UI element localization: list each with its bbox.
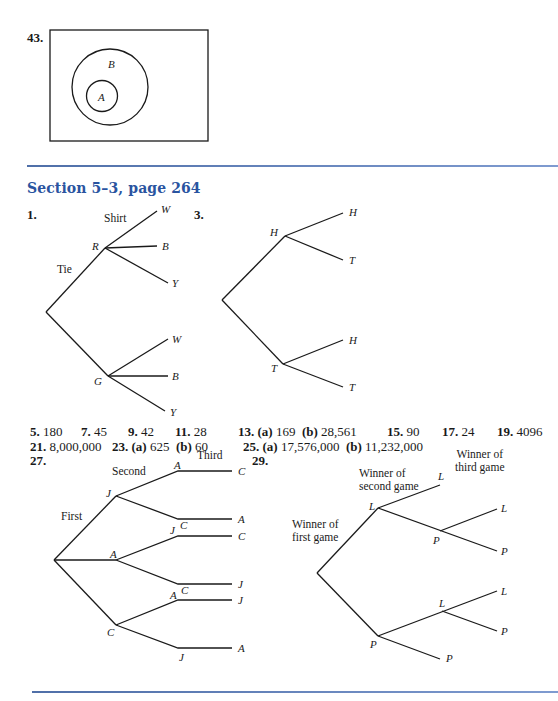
- tree29-label-first-line1: Winner of: [292, 518, 338, 530]
- tree3-leaf-tt: T: [349, 381, 355, 393]
- answer-25: 25. (a) 17,576,000 (b) 11,232,000: [243, 439, 423, 455]
- tree27-node-ac: C: [181, 584, 188, 596]
- tree27-level-label-second: Second: [112, 465, 146, 477]
- tree27-node-ja: A: [174, 459, 181, 471]
- tree29-label-first-line2: first game: [292, 531, 338, 543]
- venn-label-b: B: [108, 58, 115, 70]
- tree29-node-l: L: [369, 500, 375, 512]
- problem-1-number: 1.: [27, 207, 37, 223]
- section-heading: Section 5–3, page 264: [27, 180, 201, 196]
- answer-19: 19. 4096: [497, 424, 543, 440]
- tree1-node-g: G: [94, 375, 102, 387]
- tree29-label-second-game: Winner of second game: [359, 467, 419, 493]
- tree1-leaf-g-w: W: [172, 333, 181, 345]
- tree3-leaf-hh: H: [349, 206, 357, 218]
- tree1-level-label-shirt: Shirt: [104, 212, 126, 224]
- tree27-node-a: A: [110, 548, 117, 560]
- tree29-leaf-plp: P: [501, 625, 508, 637]
- tree29-node-p: P: [370, 638, 377, 650]
- tree3-leaf-th: H: [349, 334, 357, 346]
- tree27-node-jc: C: [180, 519, 187, 531]
- diagram-lines: [0, 0, 558, 701]
- venn-label-a: A: [98, 91, 105, 103]
- problem-3-number: 3.: [194, 207, 204, 223]
- tree1-leaf-r-w: W: [161, 203, 170, 215]
- answer-7: 7. 45: [81, 424, 107, 440]
- tree27-level-label-first: First: [61, 510, 82, 522]
- answer-13: 13. (a) 169 (b) 28,561: [238, 424, 357, 440]
- venn-universe-rectangle: [50, 30, 208, 141]
- tree-problem-3: [222, 213, 343, 387]
- tree27-leaf-jca: A: [238, 513, 245, 525]
- tree27-leaf-cja: A: [238, 642, 245, 654]
- tree27-node-cj: J: [179, 651, 184, 663]
- tree27-node-j: J: [106, 487, 111, 499]
- tree3-node-t: T: [271, 362, 277, 374]
- tree-problem-29: [317, 485, 497, 659]
- tree1-leaf-g-y: Y: [170, 406, 176, 418]
- top-divider-rule: [27, 165, 558, 167]
- tree1-leaf-r-b: B: [162, 240, 169, 252]
- tree29-leaf-pp: P: [446, 652, 453, 664]
- problem-27-number: 27.: [30, 453, 46, 469]
- tree29-node-pl: L: [439, 597, 445, 609]
- tree3-node-h: H: [270, 226, 278, 238]
- tree27-leaf-ajc: C: [238, 530, 245, 542]
- tree1-leaf-g-b: B: [172, 370, 179, 382]
- answer-5: 5. 180: [30, 424, 63, 440]
- tree29-label-second-line2: second game: [359, 480, 419, 492]
- tree1-level-label-tie: Tie: [57, 263, 72, 275]
- tree27-level-label-third: Third: [197, 449, 223, 461]
- problem-29-number: 29.: [252, 453, 268, 469]
- tree29-label-third-line1: Winner of: [457, 448, 503, 460]
- tree27-node-aj: J: [170, 524, 175, 536]
- tree27-leaf-acj: J: [238, 578, 243, 590]
- tree1-node-r: R: [92, 240, 99, 252]
- tree29-node-lp: P: [433, 534, 440, 546]
- tree29-label-second-line1: Winner of: [359, 467, 405, 479]
- tree29-label-first-game: Winner of first game: [292, 518, 338, 544]
- tree29-label-third-line2: third game: [455, 461, 505, 473]
- tree29-leaf-lpl: L: [501, 502, 507, 514]
- tree27-leaf-caj: J: [238, 594, 243, 606]
- answer-17: 17. 24: [442, 424, 475, 440]
- tree29-leaf-pll: L: [501, 585, 507, 597]
- tree-problem-27: [54, 471, 232, 648]
- answer-15: 15. 90: [387, 424, 420, 440]
- tree29-label-third-game: Winner of third game: [455, 448, 505, 474]
- answer-23: 23. (a) 625 (b) 60: [112, 439, 208, 455]
- answer-9: 9. 42: [128, 424, 154, 440]
- answer-11: 11. 28: [175, 424, 207, 440]
- tree1-leaf-r-y: Y: [172, 277, 178, 289]
- tree29-leaf-ll: L: [438, 470, 444, 482]
- tree-problem-1: [46, 211, 168, 411]
- bottom-divider-rule: [32, 691, 558, 693]
- tree27-node-c: C: [107, 626, 114, 638]
- tree27-node-ca: A: [170, 589, 177, 601]
- tree27-leaf-jac: C: [238, 465, 245, 477]
- tree29-leaf-lpp: P: [501, 545, 508, 557]
- tree3-leaf-ht: T: [349, 254, 355, 266]
